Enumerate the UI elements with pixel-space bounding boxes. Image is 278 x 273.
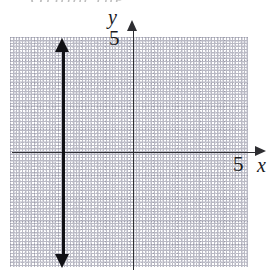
graph-figure: Graph the y x 5 5: [0, 0, 278, 273]
graph-line-arrow-up-icon: [55, 38, 69, 52]
graph-line-arrow-down-icon: [55, 254, 69, 268]
x-axis: [12, 152, 258, 153]
x-axis-label: x: [257, 155, 266, 175]
cutoff-header-text: Graph the: [30, 0, 150, 2]
y-axis-tick-label-5: 5: [109, 28, 120, 49]
y-axis-label: y: [108, 7, 117, 27]
graphed-vertical-line: [62, 48, 65, 256]
arrow-up-icon: [127, 20, 137, 31]
x-axis-tick-label-5: 5: [233, 154, 244, 175]
y-axis: [133, 30, 134, 270]
